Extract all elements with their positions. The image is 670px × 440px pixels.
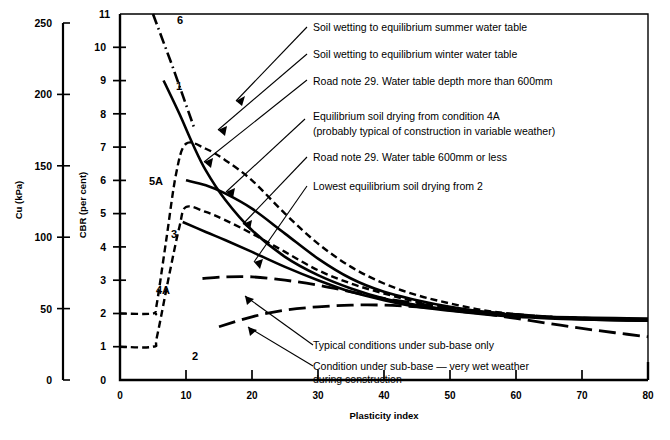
x-ticklabel-0: 0 [117, 390, 123, 401]
cbr-ticklabel-10: 10 [94, 41, 106, 53]
cu-ticklabel-0: 0 [46, 374, 52, 386]
curve-label-1: 1 [176, 80, 182, 92]
chart-svg: 250 200 150 100 50 0 Cu (kPa) 11 10 9 8 … [0, 0, 670, 440]
cu-ticklabel-150: 150 [34, 160, 52, 172]
curve-6 [153, 14, 194, 127]
annotations: Soil wetting to equilibrium summer water… [313, 21, 555, 385]
leader-arrow-2 [218, 126, 227, 136]
leader-line-7 [245, 296, 313, 345]
cbr-axis-title: CBR (per cent) [77, 172, 88, 239]
cbr-ticklabel-6: 6 [100, 174, 106, 186]
x-ticklabel-80: 80 [642, 390, 654, 401]
leader-line-6 [254, 186, 307, 262]
annotation-winter-water-table: Soil wetting to equilibrium winter water… [313, 48, 517, 60]
annotation-drying-4a-line2: (probably typical of construction in var… [313, 125, 555, 137]
leader-line-4 [226, 119, 305, 192]
curve-label-4a: 4A [156, 284, 170, 296]
cu-axis-title: Cu (kPa) [13, 181, 24, 220]
cbr-ticklabel-2: 2 [100, 307, 106, 319]
cbr-ticklabel-5: 5 [100, 207, 106, 219]
curve-label-5a: 5A [149, 175, 163, 187]
curve-label-2: 2 [192, 350, 198, 362]
x-ticklabel-70: 70 [576, 390, 588, 401]
curve-labels: 6 1 5A 3 4A 2 [149, 14, 198, 362]
cu-ticklabel-50: 50 [40, 303, 52, 315]
cu-axis: 250 200 150 100 50 0 Cu (kPa) [13, 17, 70, 386]
x-ticklabel-50: 50 [444, 390, 456, 401]
cbr-ticklabel-3: 3 [100, 274, 106, 286]
cu-ticklabel-250: 250 [34, 17, 52, 29]
x-ticklabel-10: 10 [180, 390, 192, 401]
leader-line-3 [204, 80, 307, 162]
leader-line-8 [248, 327, 313, 366]
x-ticklabel-40: 40 [378, 390, 390, 401]
cbr-ticklabel-11: 11 [99, 8, 110, 20]
annotation-lowest-drying: Lowest equilibrium soil drying from 2 [313, 180, 483, 192]
leader-line-1 [236, 27, 307, 101]
annotation-wet-weather-line1: Condition under sub-base — very wet weat… [313, 360, 529, 372]
annotation-drying-4a-line1: Equilibrium soil drying from condition 4… [313, 110, 500, 122]
annotation-summer-water-table: Soil wetting to equilibrium summer water… [313, 21, 527, 33]
cbr-ticklabel-7: 7 [100, 141, 106, 153]
plot-frame [120, 14, 648, 380]
leader-arrow-3 [204, 158, 213, 168]
cbr-ticklabel-8: 8 [100, 108, 106, 120]
cbr-ticklabel-0: 0 [100, 374, 106, 386]
cbr-ticklabel-4: 4 [100, 241, 106, 253]
curve-5a [186, 180, 648, 320]
cbr-ticklabel-1: 1 [100, 340, 106, 352]
leader-line-2 [218, 54, 307, 130]
chart-figure: 250 200 150 100 50 0 Cu (kPa) 11 10 9 8 … [0, 0, 670, 440]
cu-ticklabel-100: 100 [34, 231, 52, 243]
annotation-typical-subbase: Typical conditions under sub-base only [313, 339, 495, 351]
x-ticklabel-20: 20 [246, 390, 258, 401]
plot-axes-lines [120, 14, 648, 380]
leader-arrow-7 [245, 296, 254, 305]
leader-lines-bottom [245, 296, 313, 366]
curve-label-6: 6 [177, 14, 183, 26]
cbr-ticklabel-9: 9 [100, 74, 106, 86]
cu-ticklabel-200: 200 [34, 88, 52, 100]
annotation-wet-weather-line2: during construction [313, 373, 402, 385]
annotation-roadnote29-deep: Road note 29. Water table depth more tha… [313, 75, 553, 87]
curve-lower-dashed [120, 206, 648, 347]
leader-arrow-1 [236, 96, 245, 106]
x-ticklabel-30: 30 [312, 390, 324, 401]
x-ticklabel-60: 60 [510, 390, 522, 401]
annotation-roadnote29-shallow: Road note 29. Water table 600mm or less [313, 151, 507, 163]
cbr-axis: 11 10 9 8 7 6 5 4 3 2 1 0 CBR (per cent) [77, 8, 126, 386]
x-axis-title: Plasticity index [349, 410, 419, 421]
curve-label-3: 3 [171, 228, 177, 240]
